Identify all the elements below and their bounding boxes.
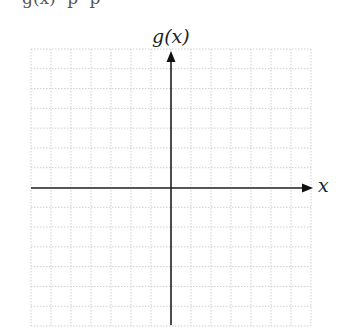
x-axis-label: x	[318, 174, 329, 196]
y-axis-arrow-icon	[167, 51, 176, 62]
y-axis-label: g(x)	[152, 25, 190, 47]
coordinate-grid	[0, 0, 343, 336]
